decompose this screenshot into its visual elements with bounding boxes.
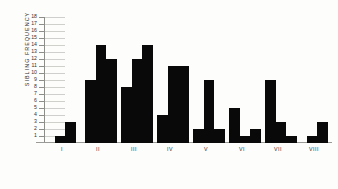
- y-tick-label: 14: [23, 41, 37, 47]
- x-axis-label-II: II: [80, 146, 116, 152]
- y-tick-label: 12: [23, 55, 37, 61]
- y-tick-label: 7: [23, 90, 37, 96]
- bar-series: [44, 17, 332, 143]
- x-axis-labels: IIIIIIIVVVIVIIVIII: [44, 146, 332, 158]
- y-tick-label: 2: [23, 125, 37, 131]
- bar: [96, 45, 107, 143]
- y-tick-label: 4: [23, 111, 37, 117]
- y-tick-label: 9: [23, 76, 37, 82]
- x-axis-label-VI: VI: [224, 146, 260, 152]
- bar: [317, 122, 328, 143]
- bar: [250, 129, 261, 143]
- y-tick-label: 13: [23, 48, 37, 54]
- bar: [178, 66, 189, 143]
- y-tick-label: 8: [23, 83, 37, 89]
- bar: [121, 87, 132, 143]
- bar: [85, 80, 96, 143]
- y-tick-label: 11: [23, 62, 37, 68]
- y-tick-label: 15: [23, 34, 37, 40]
- bar: [193, 129, 204, 143]
- bar: [55, 136, 66, 143]
- bar: [132, 59, 143, 143]
- bar: [286, 136, 297, 143]
- y-tick-label: 10: [23, 69, 37, 75]
- x-axis-label-I: I: [44, 146, 80, 152]
- y-tick-label: 18: [23, 13, 37, 19]
- y-tick-label: 1: [23, 132, 37, 138]
- y-tick-label: 6: [23, 97, 37, 103]
- bar: [276, 122, 287, 143]
- y-tick-label: 17: [23, 20, 37, 26]
- bar: [214, 129, 225, 143]
- plot-area: 181716151413121110987654321: [44, 17, 332, 143]
- bar: [229, 108, 240, 143]
- bar: [106, 59, 117, 143]
- y-tick-label: 16: [23, 27, 37, 33]
- x-axis-label-VIII: VIII: [296, 146, 332, 152]
- x-axis-label-VII: VII: [260, 146, 296, 152]
- y-tick-label: 3: [23, 118, 37, 124]
- bar: [265, 80, 276, 143]
- bar: [142, 45, 153, 143]
- bar: [168, 66, 179, 143]
- bar: [307, 136, 318, 143]
- bar: [65, 122, 76, 143]
- bar: [240, 136, 251, 143]
- bar: [204, 80, 215, 143]
- x-axis-label-IV: IV: [152, 146, 188, 152]
- x-axis-label-V: V: [188, 146, 224, 152]
- bar: [157, 115, 168, 143]
- x-axis-label-III: III: [116, 146, 152, 152]
- y-tick-label: 5: [23, 104, 37, 110]
- chart-figure: SIBLING FREQUENCY 1817161514131211109876…: [0, 0, 338, 189]
